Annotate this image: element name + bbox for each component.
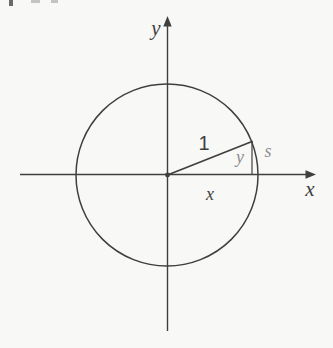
arc-length-label: s xyxy=(264,141,271,161)
ordinate-label: y xyxy=(234,147,244,167)
unit-circle-canvas: y x 1 y s x xyxy=(0,0,333,348)
origin-dot xyxy=(165,173,170,178)
radius-length-label: 1 xyxy=(198,132,209,154)
y-axis-label: y xyxy=(149,16,161,40)
scan-artifact xyxy=(31,0,40,3)
abscissa-label: x xyxy=(205,184,214,204)
unit-circle-figure: y x 1 y s x xyxy=(0,0,333,348)
x-axis-label: x xyxy=(304,177,315,201)
scan-artifact xyxy=(9,0,13,6)
scan-artifact xyxy=(51,0,58,3)
